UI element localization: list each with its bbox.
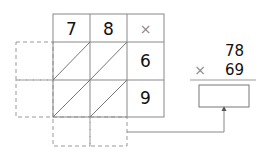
bottom-dashed-boxes — [53, 117, 127, 146]
multiplicand: 78 — [225, 42, 244, 60]
top-digit-2: 8 — [103, 19, 114, 39]
top-digit-1: 7 — [66, 19, 77, 39]
answer-arrow — [127, 110, 224, 132]
multiply-sign-icon: × — [140, 21, 152, 37]
right-digit-1: 6 — [140, 51, 151, 71]
multiplier: 69 — [225, 61, 244, 79]
problem-multiply-sign-icon: × — [194, 62, 206, 78]
answer-box[interactable] — [199, 85, 249, 107]
right-digit-2: 9 — [140, 88, 151, 108]
left-dashed-boxes — [16, 42, 53, 117]
lattice-multiplication-diagram: 7 8 × 6 9 78 × 69 — [0, 0, 271, 155]
